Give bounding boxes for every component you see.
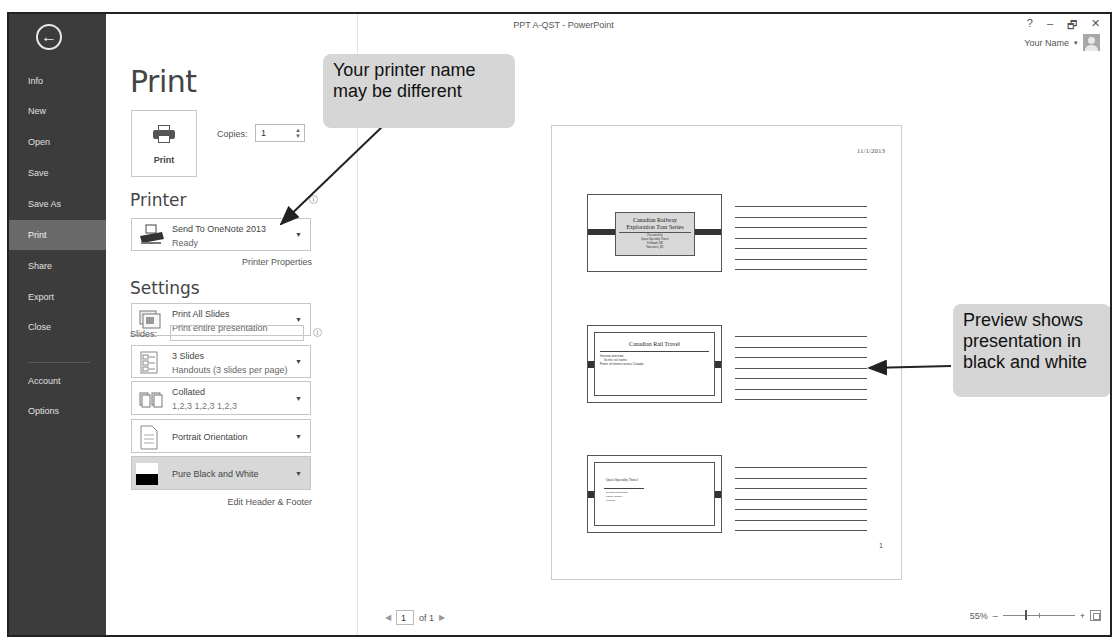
powerpoint-window: ← Info New Open Save Save As Print Share…: [7, 12, 1112, 637]
callout-arrows: [9, 14, 1112, 637]
preview-callout: Preview shows presentation in black and …: [953, 304, 1111, 397]
printer-name-callout: Your printer name may be different: [323, 54, 515, 128]
